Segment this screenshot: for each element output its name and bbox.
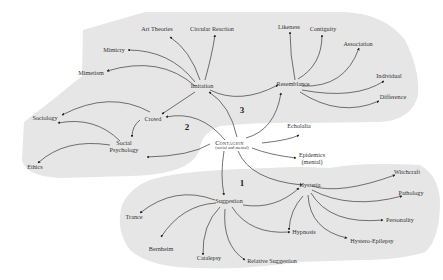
node-epidemics: Epidemics (mental) [299,151,325,165]
node-echolalia: Echolalia [287,123,310,129]
node-pathology: Pathology [398,190,423,196]
node-bernheim: Bernheim [149,246,173,252]
node-social-psychology-line1: Social [116,139,131,146]
node-contiguity: Contiguity [310,26,336,32]
node-resemblance: Resemblance [277,81,310,87]
region-upper [22,12,418,178]
node-catalepsy: Catalepsy [197,255,221,261]
node-individual: Individual [376,73,401,79]
node-sociology: Sociology [32,115,57,121]
node-social-psychology: Social Psychology [110,139,139,153]
node-hystero-epilepsy: Hystero-Epilepsy [350,238,393,244]
node-hysteria: Hysteria [300,182,321,188]
node-association: Association [343,41,372,47]
node-witchcraft: Witchcraft [394,169,420,175]
node-imitation: Imitation [191,83,214,89]
node-ethics: Ethics [27,164,42,170]
node-epidemics-label: Epidemics [299,151,325,158]
node-circular-reaction: Circular Reaction [190,26,234,32]
contagion-concept-map: 3 2 1 Contagion (social and mental) Imit… [0,0,443,280]
region-number-1: 1 [240,178,245,188]
node-mimetism: Mimetism [78,70,103,76]
region-number-3: 3 [240,105,245,115]
node-likeness: Likeness [278,24,300,30]
node-trance: Trance [126,214,143,220]
node-crowd: Crowd [145,116,162,122]
node-mimicry: Mimicry [103,47,125,53]
node-contagion: Contagion (social and mental) [215,140,249,151]
node-difference: Difference [380,94,406,100]
node-social-psychology-line2: Psychology [110,146,139,153]
region-number-2: 2 [185,122,190,132]
node-epidemics-sublabel: (mental) [302,158,323,165]
node-art-theories: Art Theories [141,26,172,32]
node-personality: Personality [386,217,414,223]
node-hypnosis: Hypnosis [292,229,315,235]
node-relative-suggestion: Relative Suggestion [247,258,297,264]
node-contagion-sublabel: (social and mental) [215,146,249,150]
node-suggestion: Suggestion [215,198,243,204]
